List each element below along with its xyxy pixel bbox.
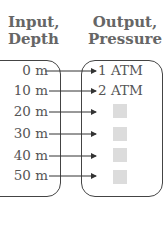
input-value: 0 m [22, 62, 48, 78]
input-value: 10 m [14, 82, 48, 98]
output-placeholder-box[interactable] [113, 127, 127, 141]
output-value: 1 ATM [98, 62, 143, 78]
output-value: 2 ATM [98, 82, 143, 98]
output-placeholder-box[interactable] [113, 170, 127, 184]
output-placeholder-box[interactable] [113, 104, 127, 118]
input-value: 50 m [14, 167, 48, 183]
input-value: 30 m [14, 125, 48, 141]
input-value: 40 m [14, 147, 48, 163]
input-value: 20 m [14, 103, 48, 119]
output-placeholder-box[interactable] [113, 148, 127, 162]
